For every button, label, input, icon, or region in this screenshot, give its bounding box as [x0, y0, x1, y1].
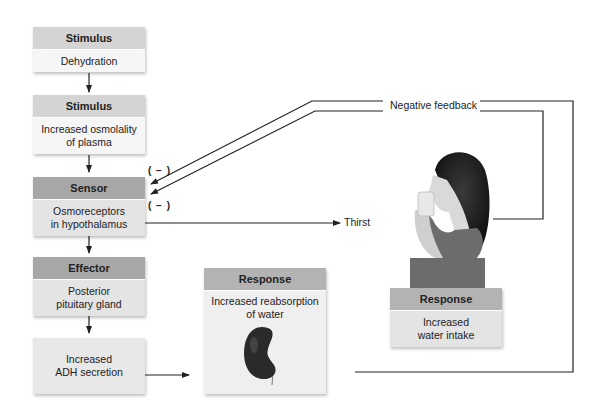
body-line: Increased	[66, 353, 112, 366]
box-body: Osmoreceptors in hypothalamus	[33, 199, 145, 236]
response-reabsorption-box: Response Increased reabsorption of water	[204, 268, 326, 394]
box-body: Increased ADH secretion	[33, 338, 145, 394]
thirst-label: Thirst	[344, 216, 370, 228]
body-line: of plasma	[66, 136, 112, 149]
effector-box: Effector Posterior pituitary gland	[33, 257, 145, 316]
box-body: Increased osmolality of plasma	[33, 117, 145, 154]
kidney-icon	[240, 325, 290, 385]
body-line: in hypothalamus	[51, 218, 127, 231]
sensor-box: Sensor Osmoreceptors in hypothalamus	[33, 177, 145, 236]
box-body: Dehydration	[33, 49, 145, 72]
body-line: Increased osmolality	[41, 123, 137, 136]
adh-secretion-box: Increased ADH secretion	[33, 338, 145, 394]
box-header: Effector	[33, 257, 145, 279]
inhibition-sign: ( − )	[148, 165, 171, 176]
stimulus-osmolality-box: Stimulus Increased osmolality of plasma	[33, 95, 145, 154]
box-header: Stimulus	[33, 27, 145, 49]
body-line: Increased reabsorption	[211, 295, 318, 308]
negative-feedback-label: Negative feedback	[387, 99, 480, 111]
body-line: of water	[246, 308, 283, 321]
box-header: Sensor	[33, 177, 145, 199]
body-line: Posterior	[68, 285, 110, 298]
box-header: Response	[390, 288, 502, 310]
body-line: ADH secretion	[55, 366, 123, 379]
body-line: Increased	[423, 316, 469, 329]
body-line: water intake	[418, 329, 475, 342]
box-body: Increased water intake	[390, 310, 502, 347]
box-header: Stimulus	[33, 95, 145, 117]
response-water-intake-box: Response Increased water intake	[390, 288, 502, 347]
box-body: Increased reabsorption of water	[204, 290, 326, 394]
body-line: pituitary gland	[56, 298, 121, 311]
box-header: Response	[204, 268, 326, 290]
inhibition-sign: ( − )	[148, 200, 171, 211]
box-body: Posterior pituitary gland	[33, 279, 145, 316]
body-line: Osmoreceptors	[53, 205, 125, 218]
stimulus-dehydration-box: Stimulus Dehydration	[33, 27, 145, 72]
woman-drinking-image	[385, 140, 495, 290]
